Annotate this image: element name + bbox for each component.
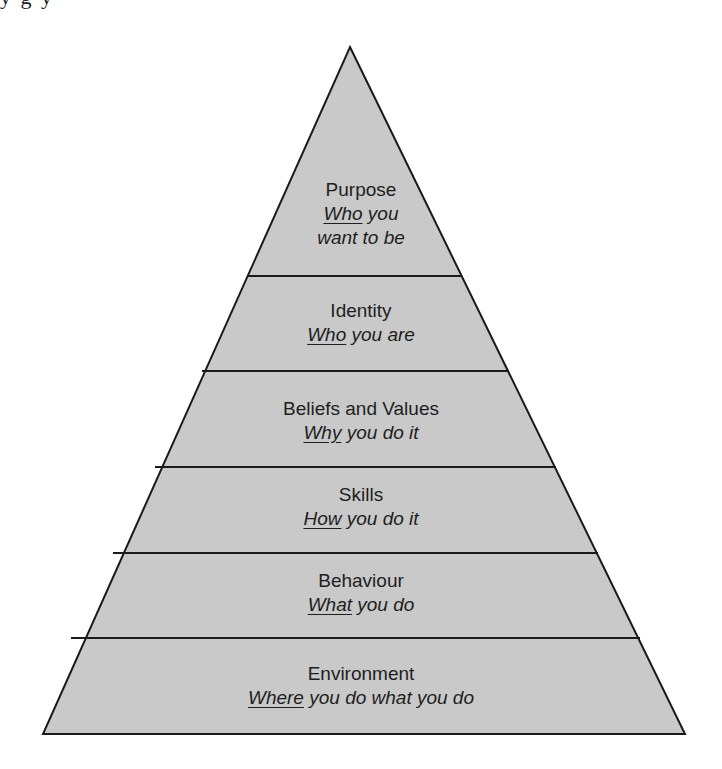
emphasis-word: Who [324,203,363,224]
emphasis-word: Who [307,324,346,345]
layer-title: Beliefs and Values [0,397,722,421]
layer-subtitle: Who you [0,202,722,226]
layer-title: Environment [0,662,722,686]
layer-purpose: Purpose Who you want to be [0,178,722,250]
layer-beliefs-values: Beliefs and Values Why you do it [0,397,722,445]
layer-behaviour: Behaviour What you do [0,569,722,617]
layer-title: Identity [0,299,722,323]
emphasis-word: How [303,508,341,529]
subtitle-rest: you do [352,594,414,615]
layer-subtitle: How you do it [0,507,722,531]
subtitle-rest: you do what you do [304,687,474,708]
layer-subtitle: Where you do what you do [0,686,722,710]
layer-subtitle-line2: want to be [0,226,722,250]
layer-title: Purpose [0,178,722,202]
pyramid-diagram [0,0,722,769]
layer-title: Behaviour [0,569,722,593]
subtitle-rest: you are [346,324,415,345]
layer-subtitle: Who you are [0,323,722,347]
layer-subtitle: Why you do it [0,421,722,445]
emphasis-word: What [308,594,352,615]
layer-skills: Skills How you do it [0,483,722,531]
layer-title: Skills [0,483,722,507]
emphasis-word: Where [248,687,304,708]
subtitle-rest: you [363,203,399,224]
pyramid-shape [43,47,685,734]
subtitle-rest: you do it [341,422,418,443]
layer-environment: Environment Where you do what you do [0,662,722,710]
emphasis-word: Why [303,422,341,443]
layer-subtitle: What you do [0,593,722,617]
subtitle-rest: you do it [341,508,418,529]
layer-identity: Identity Who you are [0,299,722,347]
